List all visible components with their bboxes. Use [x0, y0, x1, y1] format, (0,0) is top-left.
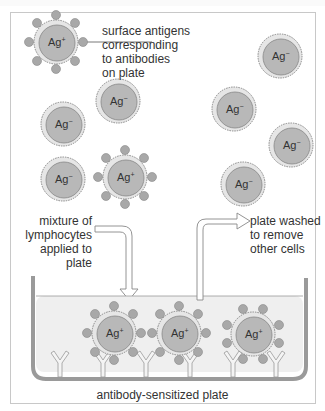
ag-negative-cell: Ag− [258, 34, 302, 78]
ag-negative-cell: Ag− [269, 123, 313, 167]
ag-negative-cell: Ag− [221, 162, 265, 206]
surface-antigens-label: surface antigens corresponding to antibo… [102, 24, 190, 80]
ag-positive-cell: Ag+ [94, 146, 157, 209]
plate-washed-label: plate washed to remove other cells [250, 214, 321, 256]
plate-label: antibody-sensitized plate [0, 388, 325, 402]
wash-arrow [197, 213, 250, 300]
ag-negative-cell: Ag− [96, 79, 140, 123]
mixture-applied-label: mixture of lymphocytes applied to plate [18, 214, 92, 270]
ag-negative-cell: Ag− [212, 87, 256, 131]
apply-arrow [95, 226, 138, 300]
ag-negative-cell: Ag− [41, 157, 85, 201]
ag-negative-cell: Ag− [41, 102, 85, 146]
